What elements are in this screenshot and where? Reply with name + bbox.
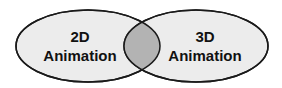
label-3d-line1: 3D: [195, 28, 214, 45]
label-2d-line2: Animation: [43, 47, 116, 64]
label-2d-line1: 2D: [70, 28, 89, 45]
label-3d-line2: Animation: [168, 47, 241, 64]
venn-diagram: 2D Animation 3D Animation: [0, 0, 282, 88]
